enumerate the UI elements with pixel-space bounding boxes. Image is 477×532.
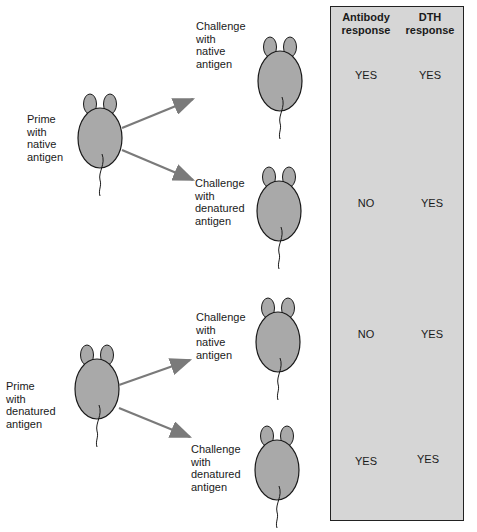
prime-label-native: Prime with native antigen bbox=[27, 113, 63, 163]
arrow-icon bbox=[122, 99, 193, 128]
antibody-result-1: YES bbox=[335, 69, 397, 81]
dth-result-2: YES bbox=[401, 197, 463, 209]
prime-label-denatured: Prime with denatured antigen bbox=[6, 380, 56, 430]
mouse-icon-challenge-2 bbox=[257, 167, 301, 269]
arrow-icon bbox=[122, 150, 193, 180]
dth-result-3: YES bbox=[401, 328, 463, 340]
mouse-icon-prime-denatured bbox=[75, 345, 119, 447]
challenge-label-4: Challenge with denatured antigen bbox=[191, 443, 241, 493]
header-dth-response: DTH response bbox=[399, 11, 461, 37]
results-panel: Antibody response DTH response YES YES N… bbox=[330, 6, 464, 521]
arrow-icon bbox=[119, 408, 190, 437]
antibody-result-4: YES bbox=[335, 455, 397, 467]
antibody-result-3: NO bbox=[335, 328, 397, 340]
dth-result-1: YES bbox=[399, 69, 461, 81]
header-antibody-response: Antibody response bbox=[335, 11, 397, 37]
mouse-icon-challenge-1 bbox=[258, 37, 302, 139]
dth-result-4: YES bbox=[397, 453, 459, 465]
challenge-label-3: Challenge with native antigen bbox=[196, 311, 246, 361]
challenge-label-1: Challenge with native antigen bbox=[196, 20, 246, 70]
mouse-icon-challenge-3 bbox=[256, 298, 300, 400]
mouse-icon-challenge-4 bbox=[255, 426, 299, 528]
arrow-icon bbox=[119, 360, 190, 385]
challenge-label-2: Challenge with denatured antigen bbox=[195, 177, 245, 227]
antibody-result-2: NO bbox=[335, 197, 397, 209]
mouse-icon-prime-native bbox=[78, 94, 122, 196]
